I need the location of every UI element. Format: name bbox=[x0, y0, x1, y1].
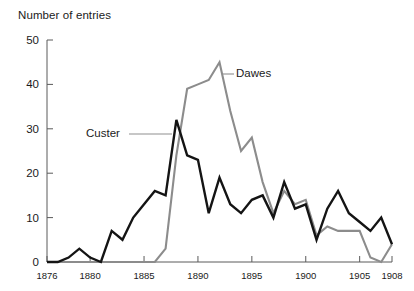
x-tick-label: 1890 bbox=[178, 270, 218, 281]
chart-plot-area bbox=[0, 0, 414, 291]
y-tick-label: 0 bbox=[13, 256, 39, 268]
series-line-custer bbox=[47, 120, 392, 262]
y-tick-label: 40 bbox=[13, 78, 39, 90]
y-tick-label: 50 bbox=[13, 34, 39, 46]
x-tick-label: 1876 bbox=[27, 270, 67, 281]
x-tick-label: 1908 bbox=[372, 270, 412, 281]
x-tick-label: 1880 bbox=[70, 270, 110, 281]
series-line-dawes bbox=[47, 62, 392, 262]
x-tick-label: 1895 bbox=[232, 270, 272, 281]
y-axis-ticks bbox=[47, 40, 53, 262]
chart-container: Number of entries 01020304050 1876188018… bbox=[0, 0, 414, 291]
x-tick-label: 1900 bbox=[286, 270, 326, 281]
series-annotation-dawes: Dawes bbox=[236, 67, 271, 80]
axis-lines bbox=[47, 40, 392, 262]
y-tick-label: 10 bbox=[13, 212, 39, 224]
y-tick-label: 30 bbox=[13, 123, 39, 135]
series-annotation-custer: Custer bbox=[86, 127, 120, 140]
y-tick-label: 20 bbox=[13, 167, 39, 179]
x-tick-label: 1885 bbox=[124, 270, 164, 281]
